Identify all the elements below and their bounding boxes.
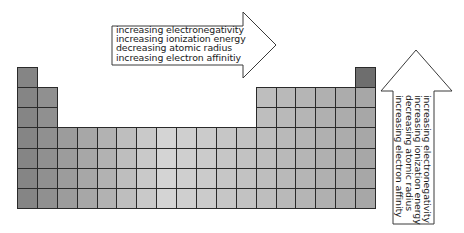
vertical-arrow-label: increasing electronegativity increasing … xyxy=(395,95,432,225)
v-trend-line: decreasing atomic radius xyxy=(404,95,413,225)
v-trend-line: increasing electron affinity xyxy=(395,95,404,225)
v-trend-line: increasing ionization energy xyxy=(414,95,423,225)
h-trend-line: increasing electron affinitiy xyxy=(116,53,246,62)
periodic-trends-diagram: increasing electronegativity increasing … xyxy=(0,0,464,233)
v-trend-line: increasing electronegativity xyxy=(423,95,432,225)
horizontal-arrow-label: increasing electronegativity increasing … xyxy=(116,25,246,62)
